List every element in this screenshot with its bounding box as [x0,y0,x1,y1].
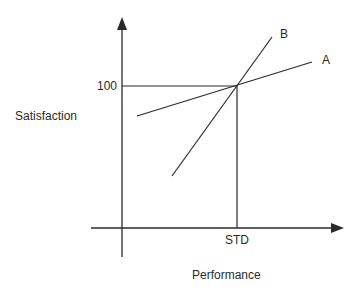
y-axis-arrow-icon [117,17,127,30]
y-tick-label: 100 [97,80,117,92]
x-tick-label: STD [225,234,249,246]
line-b-label: B [280,28,288,40]
satisfaction-performance-diagram [0,0,354,296]
x-axis-arrow-icon [331,223,344,233]
x-axis-label: Performance [192,269,261,281]
line-a [137,62,312,116]
line-b [172,37,272,176]
y-axis-label: Satisfaction [15,110,77,122]
line-a-label: A [322,54,330,66]
